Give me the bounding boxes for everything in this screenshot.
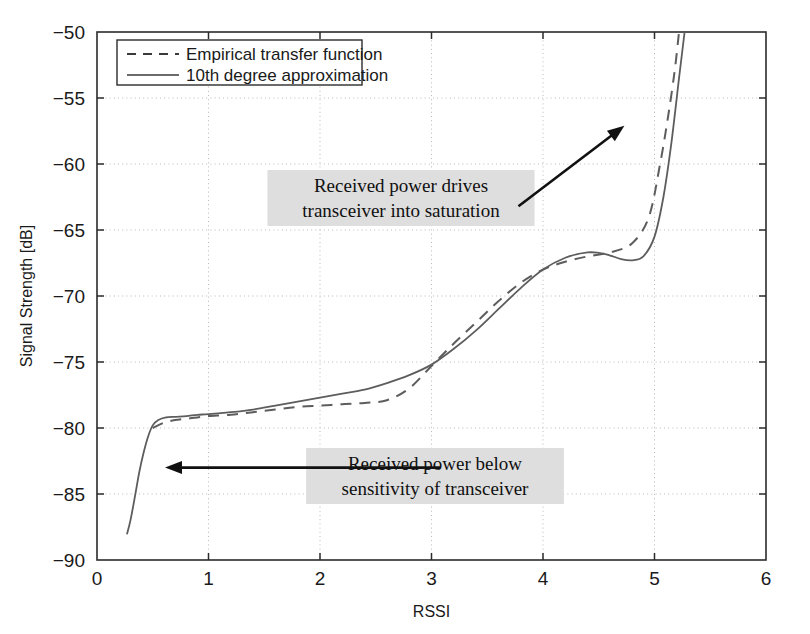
x-tick-label: 5 xyxy=(649,568,660,589)
x-tick-label: 6 xyxy=(761,568,772,589)
x-tick-label: 2 xyxy=(315,568,326,589)
saturation-note-line: transceiver into saturation xyxy=(302,200,500,221)
legend-label-1: Empirical transfer function xyxy=(186,45,383,64)
y-tick-label: −85 xyxy=(53,484,85,505)
saturation-note-line: Received power drives xyxy=(314,175,488,196)
figure-container: 0123456 −90−85−80−75−70−65−60−55−50 RSSI… xyxy=(0,0,810,634)
x-tick-label: 3 xyxy=(426,568,437,589)
y-tick-label: −75 xyxy=(53,352,85,373)
y-axis-title: Signal Strength [dB] xyxy=(18,225,35,367)
y-tick-label: −70 xyxy=(53,286,85,307)
y-tick-label: −55 xyxy=(53,88,85,109)
sensitivity-note-line: sensitivity of transceiver xyxy=(342,478,529,499)
y-tick-label: −80 xyxy=(53,418,85,439)
legend: Empirical transfer function10th degree a… xyxy=(117,40,388,85)
x-tick-label: 0 xyxy=(92,568,103,589)
y-tick-label: −65 xyxy=(53,220,85,241)
chart-background xyxy=(0,0,810,634)
y-tick-labels: −90−85−80−75−70−65−60−55−50 xyxy=(53,22,85,571)
x-tick-label: 1 xyxy=(203,568,214,589)
legend-label-2: 10th degree approximation xyxy=(186,66,388,85)
signal-strength-chart: 0123456 −90−85−80−75−70−65−60−55−50 RSSI… xyxy=(0,0,810,634)
sensitivity-note-line: Received power below xyxy=(348,453,522,474)
y-tick-label: −50 xyxy=(53,22,85,43)
y-tick-label: −90 xyxy=(53,550,85,571)
x-tick-label: 4 xyxy=(538,568,549,589)
y-tick-label: −60 xyxy=(53,154,85,175)
x-axis-title: RSSI xyxy=(413,603,450,620)
